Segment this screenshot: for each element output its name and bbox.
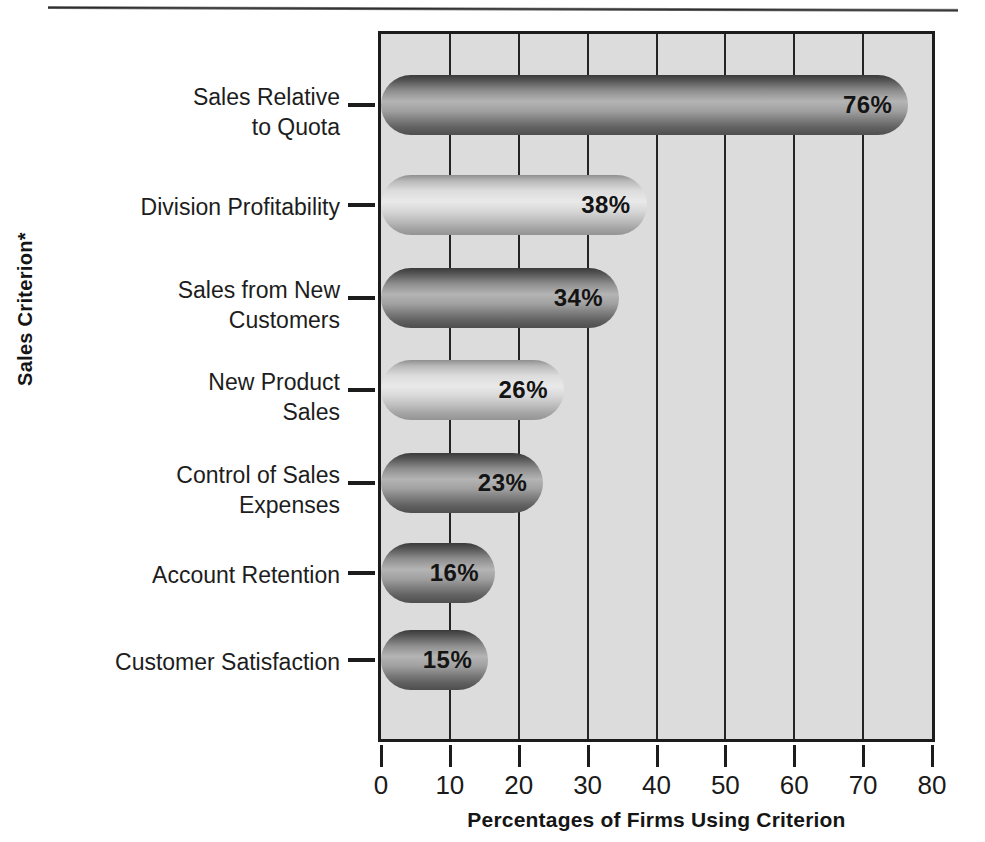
bar: 23% [381,453,543,513]
x-axis-tick [862,745,865,767]
bar-value-label: 26% [499,360,549,420]
x-axis-tick [793,745,796,767]
x-axis-tick-label: 60 [764,770,824,801]
x-axis-tick-label: 70 [833,770,893,801]
category-label: Sales from New Customers [178,275,340,335]
category-tick [348,481,375,485]
category-tick [348,388,375,392]
category-tick [348,103,375,107]
category-label: Control of Sales Expenses [176,460,340,520]
category-tick [348,296,375,300]
bar: 16% [381,543,495,603]
category-label: Division Profitability [141,192,340,222]
x-axis-tick-label: 80 [902,770,962,801]
bar: 26% [381,360,564,420]
x-axis-tick [656,745,659,767]
gridline [793,34,795,739]
category-tick [348,571,375,575]
bar-value-label: 34% [554,268,604,328]
x-axis-tick [587,745,590,767]
category-label: Customer Satisfaction [115,647,340,677]
category-tick [348,658,375,662]
x-axis-tick-label: 40 [627,770,687,801]
x-axis-tick-label: 50 [695,770,755,801]
bar: 15% [381,630,488,690]
plot-inner: 76%38%34%26%23%16%15% [381,34,932,739]
x-axis-tick-label: 0 [351,770,411,801]
bar-value-label: 76% [843,75,893,135]
x-axis-tick-label: 20 [489,770,549,801]
category-tick [348,203,375,207]
x-axis-tick-label: 10 [420,770,480,801]
x-axis-tick [449,745,452,767]
plot-area: 76%38%34%26%23%16%15% [378,31,935,742]
bar: 38% [381,175,647,235]
category-label: Sales Relative to Quota [193,82,340,142]
bar-body [381,75,908,135]
y-axis-title: Sales Criterion* [14,232,37,386]
gridline [587,34,589,739]
x-axis-tick [380,745,383,767]
category-label: New Product Sales [208,367,340,427]
gridline [724,34,726,739]
bar-value-label: 15% [423,630,473,690]
bar-chart-figure: 76%38%34%26%23%16%15% Sales Relative to … [0,0,985,842]
bar-value-label: 16% [430,543,480,603]
bar: 34% [381,268,619,328]
gridline [862,34,864,739]
bar-value-label: 38% [581,175,631,235]
bar-value-label: 23% [478,453,528,513]
category-label: Account Retention [152,560,340,590]
bar: 76% [381,75,908,135]
x-axis-tick [931,745,934,767]
x-axis-tick [518,745,521,767]
gridline [656,34,658,739]
x-axis-title: Percentages of Firms Using Criterion [378,808,935,832]
x-axis-tick [724,745,727,767]
x-axis-tick-label: 30 [558,770,618,801]
